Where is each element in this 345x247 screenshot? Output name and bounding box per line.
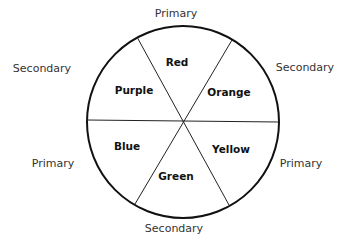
- label-bottom-right-primary: Primary: [280, 157, 323, 170]
- label-top-left-secondary: Secondary: [13, 62, 71, 75]
- label-bottom-secondary: Secondary: [145, 222, 203, 235]
- segment-green: Green: [158, 170, 194, 182]
- color-wheel: [0, 0, 345, 247]
- segment-blue: Blue: [114, 140, 140, 152]
- segment-red: Red: [166, 56, 189, 68]
- label-bottom-left-primary: Primary: [32, 157, 75, 170]
- segment-orange: Orange: [207, 86, 250, 98]
- label-top-right-secondary: Secondary: [276, 61, 334, 74]
- segment-purple: Purple: [115, 84, 154, 96]
- label-top-primary: Primary: [155, 7, 198, 20]
- segment-yellow: Yellow: [212, 143, 250, 155]
